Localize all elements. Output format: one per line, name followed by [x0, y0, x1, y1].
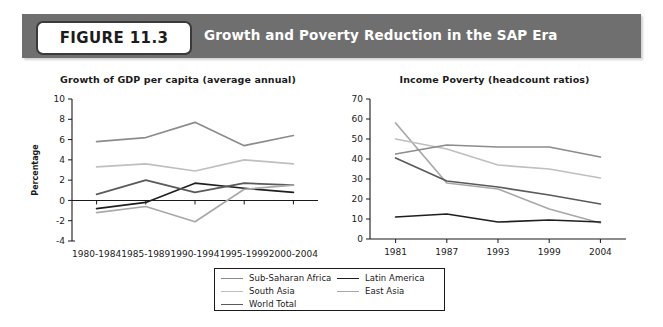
x-axis-tick-label: 1987: [435, 247, 458, 257]
x-axis-tick-label: 1981: [384, 247, 407, 257]
data-series-line: [97, 122, 294, 145]
y-axis-tick-label: -2: [56, 216, 65, 226]
y-axis-tick-label: 10: [352, 214, 364, 224]
x-axis-tick-label: 1990-1994: [170, 249, 219, 259]
figure-title: Growth and Poverty Reduction in the SAP …: [204, 27, 558, 43]
x-axis-tick-label: 1993: [487, 247, 510, 257]
legend-color-swatch: [337, 291, 359, 292]
y-axis-tick-label: 50: [352, 134, 364, 144]
y-axis-tick-label: 30: [352, 174, 364, 184]
y-axis-tick-label: 60: [352, 114, 364, 124]
chart-panel-poverty: Income Poverty (headcount ratios) 010203…: [332, 70, 657, 265]
y-axis-tick-label: 40: [352, 154, 364, 164]
y-axis-tick-label: 8: [59, 114, 65, 124]
x-axis-tick-label: 2000-2004: [269, 249, 318, 259]
chart-legend: Sub-Saharan AfricaSouth AsiaWorld Total …: [214, 268, 445, 311]
x-axis-tick-label: 2004: [589, 247, 612, 257]
line-chart-growth: -4-202468101980-19841985-19891990-199419…: [18, 70, 338, 265]
y-axis-tick-label: 0: [357, 234, 363, 244]
legend-color-swatch: [221, 291, 243, 292]
legend-column-2: Latin AmericaEast Asia: [337, 272, 424, 298]
legend-label: East Asia: [365, 286, 404, 296]
legend-column-1: Sub-Saharan AfricaSouth AsiaWorld Total: [221, 272, 331, 311]
data-series-line: [97, 160, 294, 171]
x-axis-tick-label: 1995-1999: [220, 249, 269, 259]
figure-number-label: FIGURE 11.3: [60, 29, 169, 47]
legend-item: World Total: [221, 298, 331, 310]
figure-banner: FIGURE 11.3 Growth and Poverty Reduction…: [22, 14, 641, 58]
y-axis-tick-label: 6: [59, 135, 65, 145]
y-axis-tick-label: 2: [59, 175, 65, 185]
legend-label: South Asia: [249, 286, 295, 296]
legend-item: Sub-Saharan Africa: [221, 272, 331, 284]
y-axis-title: Percentage: [31, 144, 40, 196]
legend-color-swatch: [221, 304, 243, 305]
figure-number-badge: FIGURE 11.3: [36, 21, 192, 55]
y-axis-tick-label: 4: [59, 155, 65, 165]
y-axis-tick-label: -4: [56, 236, 65, 246]
data-series-line: [396, 145, 601, 157]
legend-color-swatch: [221, 278, 243, 279]
x-axis-tick-label: 1985-1989: [121, 249, 170, 259]
x-axis-tick-label: 1999: [538, 247, 561, 257]
legend-label: World Total: [249, 299, 296, 309]
y-axis-tick-label: 0: [59, 196, 65, 206]
line-chart-poverty: 01020304050607019811987199319992004: [332, 70, 657, 265]
legend-item: East Asia: [337, 285, 424, 297]
legend-item: Latin America: [337, 272, 424, 284]
x-axis-tick-label: 1980-1984: [72, 249, 121, 259]
y-axis-tick-label: 10: [54, 94, 66, 104]
y-axis-tick-label: 20: [352, 194, 364, 204]
legend-label: Latin America: [365, 273, 424, 283]
legend-color-swatch: [337, 278, 359, 279]
chart-panel-growth: Growth of GDP per capita (average annual…: [18, 70, 338, 265]
y-axis-tick-label: 70: [352, 94, 364, 104]
legend-item: South Asia: [221, 285, 331, 297]
legend-label: Sub-Saharan Africa: [249, 273, 331, 283]
